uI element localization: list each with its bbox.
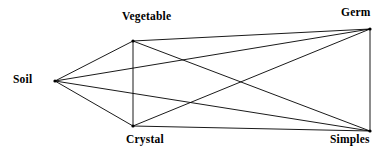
node-point-vegetable bbox=[131, 39, 134, 42]
node-label-vegetable: Vegetable bbox=[122, 11, 171, 23]
edge-crystal-simples bbox=[133, 126, 370, 131]
node-label-crystal: Crystal bbox=[126, 134, 164, 146]
edge-crystal-germ bbox=[133, 29, 370, 126]
node-point-crystal bbox=[131, 124, 134, 127]
edge-soil-crystal bbox=[55, 81, 133, 126]
node-label-germ: Germ bbox=[341, 7, 371, 19]
node-label-soil: Soil bbox=[13, 74, 32, 86]
node-label-simples: Simples bbox=[330, 134, 370, 146]
node-point-germ bbox=[368, 27, 371, 30]
diagram-canvas: Soil Vegetable Germ Crystal Simples bbox=[0, 0, 389, 158]
edge-vegetable-simples bbox=[133, 41, 370, 131]
node-point-soil bbox=[53, 79, 56, 82]
edge-soil-simples bbox=[55, 81, 370, 131]
